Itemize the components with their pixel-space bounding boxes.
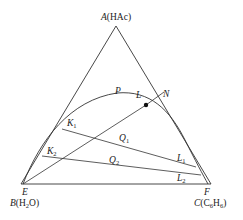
ternary-diagram: A(HAc) B(H2O) C(C6H6) P L N K1 K2 Q1 Q2 … <box>0 0 243 220</box>
point-k2-label: K2 <box>46 146 57 157</box>
point-q2-label: Q2 <box>109 155 119 166</box>
vertex-a-label: A(HAc) <box>100 12 131 23</box>
vertex-c-label: C(C6H6) <box>194 198 226 209</box>
vertex-b-label: B(H2O) <box>10 198 39 209</box>
point-f-label: F <box>203 187 210 197</box>
point-p-label: P <box>114 86 121 96</box>
tie-line-k1-l1 <box>62 129 196 167</box>
point-e-label: E <box>21 187 28 197</box>
line-e-to-l <box>23 105 146 184</box>
point-n-label: N <box>162 89 170 99</box>
solubility-curve <box>23 93 208 184</box>
point-l-label: L <box>135 90 141 100</box>
point-l-marker <box>144 103 148 107</box>
point-l1-label: L1 <box>176 153 186 164</box>
point-k1-label: K1 <box>66 118 77 129</box>
point-l2-label: L2 <box>176 173 186 184</box>
point-q1-label: Q1 <box>119 133 129 144</box>
